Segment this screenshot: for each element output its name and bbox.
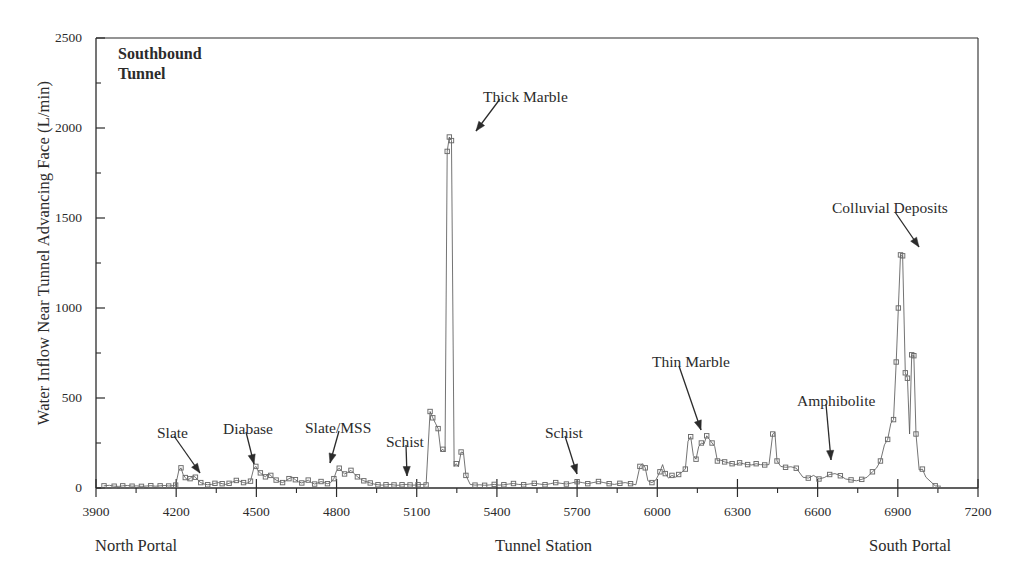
annotation-arrow: [246, 432, 255, 464]
data-line: [104, 137, 941, 486]
chart-figure: Water Inflow Near Tunnel Advancing Face …: [0, 0, 1020, 582]
annotation-arrow: [565, 436, 578, 474]
annotation-arrow-head: [192, 463, 200, 473]
annotation-arrow: [679, 366, 701, 430]
annotation-arrow-head: [571, 464, 578, 474]
annotation-arrow: [329, 431, 339, 463]
plot-canvas: [0, 0, 1020, 582]
annotation-arrow-head: [476, 121, 485, 131]
annotation-arrow-head: [329, 453, 336, 463]
annotation-arrow-head: [248, 454, 255, 464]
annotation-arrow-head: [403, 466, 410, 476]
annotation-arrow-head: [827, 450, 834, 460]
annotation-arrow: [174, 436, 200, 473]
annotation-arrow: [403, 445, 410, 476]
annotation-arrow-head: [695, 420, 702, 430]
annotation-arrow-head: [911, 237, 919, 247]
annotation-arrow-shaft: [679, 366, 701, 430]
annotation-arrow: [476, 99, 500, 131]
annotation-arrow: [895, 212, 919, 247]
annotation-arrow: [826, 404, 834, 460]
